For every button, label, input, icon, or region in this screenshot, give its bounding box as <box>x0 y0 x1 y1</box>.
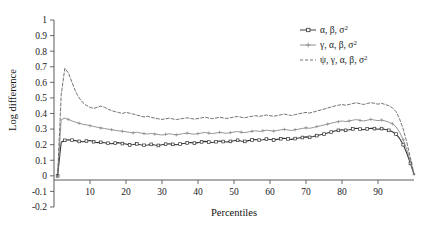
x-tick-label: 60 <box>265 187 275 197</box>
series-marker-cross <box>294 128 297 131</box>
series-marker-cross <box>315 125 318 128</box>
series-marker-square <box>323 133 326 136</box>
x-tick-label: 90 <box>373 187 383 197</box>
series-marker-square <box>258 139 261 142</box>
series-marker-square <box>265 138 268 141</box>
series-line <box>58 118 414 176</box>
series-marker-square <box>402 143 405 146</box>
legend-item-2[interactable]: γ, α, β, σ2 <box>300 39 357 50</box>
series-marker-square <box>114 142 117 145</box>
series-marker-square <box>157 144 160 147</box>
y-axis-title: Log difference <box>7 69 18 131</box>
series-marker-square <box>200 141 203 144</box>
chart-figure: Log difference 10.90.80.70.60.50.40.30.2… <box>0 0 432 234</box>
data-series-2 <box>56 118 416 178</box>
series-marker-square <box>78 140 81 143</box>
y-tick-label: 0.5 <box>35 93 47 103</box>
series-marker-cross <box>99 126 102 129</box>
y-tick-label: 0.9 <box>35 31 47 41</box>
series-marker-cross <box>380 118 383 121</box>
series-marker-square <box>279 137 282 140</box>
series-marker-square <box>380 127 383 130</box>
series-marker-square <box>373 127 376 130</box>
y-tick-label: 0.3 <box>35 124 47 134</box>
series-marker-square <box>294 137 297 140</box>
x-axis-ticks: 102030405060708090 <box>85 180 383 197</box>
series-marker-cross <box>207 131 210 134</box>
series-marker-cross <box>304 126 307 129</box>
series-marker-square <box>315 134 318 137</box>
legend-item-3[interactable]: ψ, γ, α, β, σ2 <box>300 54 368 65</box>
series-marker-cross <box>337 120 340 123</box>
series-marker-cross <box>175 133 178 136</box>
chart-legend: α, β, σ2γ, α, β, σ2ψ, γ, α, β, σ2 <box>300 24 368 65</box>
y-tick-label: 0 <box>42 171 47 181</box>
data-series-3 <box>58 68 414 176</box>
series-marker-cross <box>402 138 405 141</box>
x-tick-label: 50 <box>229 187 239 197</box>
series-marker-square <box>143 144 146 147</box>
series-marker-square <box>92 140 95 143</box>
series-marker-cross <box>272 129 275 132</box>
series-marker-square <box>171 143 174 146</box>
x-tick-label: 70 <box>301 187 311 197</box>
series-marker-square <box>236 139 239 142</box>
y-axis-ticks: 10.90.80.70.60.50.40.30.20.10-0.1-0.2 <box>32 15 54 212</box>
series-marker-square <box>387 129 390 132</box>
x-tick-label: 40 <box>193 187 203 197</box>
series-marker-cross <box>121 130 124 133</box>
series-marker-cross <box>132 131 135 134</box>
series-marker-square <box>251 139 254 142</box>
series-marker-cross <box>326 122 329 125</box>
y-tick-label: -0.1 <box>32 187 47 197</box>
series-marker-square <box>135 143 138 146</box>
series-marker-square <box>85 140 88 143</box>
series-marker-square <box>164 143 167 146</box>
series-marker-cross <box>67 118 70 121</box>
series-marker-cross <box>250 130 253 133</box>
data-series-1 <box>56 127 414 177</box>
series-marker-square <box>207 141 210 144</box>
series-marker-cross <box>261 129 264 132</box>
y-tick-label: 0.6 <box>35 78 47 88</box>
x-axis-title: Percentiles <box>211 207 257 218</box>
series-marker-square <box>193 142 196 145</box>
series-marker-square <box>186 142 189 145</box>
series-marker-cross <box>196 132 199 135</box>
series-marker-cross <box>358 119 361 122</box>
y-tick-label: 1 <box>42 15 47 25</box>
series-marker-cross <box>229 131 232 134</box>
series-marker-square <box>272 139 275 142</box>
series-marker-square <box>359 128 362 131</box>
series-marker-cross <box>348 119 351 122</box>
legend-item-1[interactable]: α, β, σ2 <box>300 24 348 35</box>
x-tick-label: 80 <box>337 187 347 197</box>
series-marker-cross <box>186 131 189 134</box>
series-marker-cross <box>283 128 286 131</box>
series-marker-square <box>337 129 340 132</box>
y-tick-label: 0.4 <box>35 109 47 119</box>
legend-label: α, β, σ2 <box>320 24 348 35</box>
series-line <box>58 68 414 176</box>
y-tick-label: -0.2 <box>32 202 47 212</box>
legend-marker-square <box>307 28 310 31</box>
series-marker-square <box>229 140 232 143</box>
series-marker-square <box>351 128 354 131</box>
series-marker-cross <box>153 132 156 135</box>
series-marker-square <box>107 142 110 145</box>
series-marker-square <box>128 144 131 147</box>
series-marker-square <box>121 142 124 145</box>
series-marker-square <box>330 131 333 134</box>
legend-label: ψ, γ, α, β, σ2 <box>320 54 368 65</box>
series-line <box>58 128 414 176</box>
x-tick-label: 20 <box>121 187 131 197</box>
legend-marker-cross <box>306 43 311 48</box>
series-marker-square <box>395 133 398 136</box>
series-marker-square <box>63 139 66 142</box>
series-marker-cross <box>164 133 167 136</box>
series-marker-cross <box>110 128 113 131</box>
series-marker-square <box>222 140 225 143</box>
series-marker-square <box>99 141 102 144</box>
series-marker-square <box>287 138 290 141</box>
series-marker-square <box>179 143 182 146</box>
